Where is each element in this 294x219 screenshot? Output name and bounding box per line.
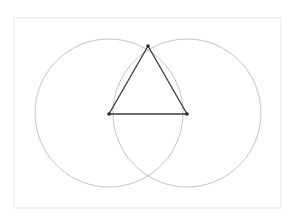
triangle-vertex-base-left <box>107 112 111 116</box>
figure-canvas <box>0 0 294 219</box>
triangle-vertex-apex <box>146 44 150 48</box>
triangle-vertex-base-right <box>185 112 189 116</box>
construction-diagram <box>0 0 294 219</box>
